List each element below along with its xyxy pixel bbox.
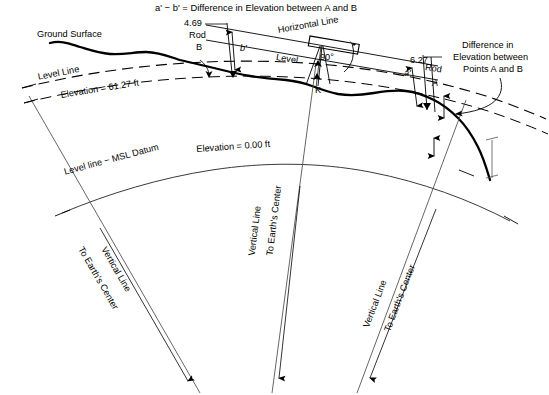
difference-note-line-2: Elevation between <box>453 52 528 64</box>
leveling-diagram: a' − b' = Difference in Elevation betwee… <box>0 0 549 395</box>
rod-b-letter-label: B <box>196 42 202 54</box>
difference-note-line-3: Points A and B <box>463 64 523 76</box>
rod-a-letter-label: A <box>432 78 438 90</box>
rod-a-word-label: Rod <box>424 62 442 76</box>
msl-datum-curve <box>62 164 510 221</box>
rod-b-word-label: Rod <box>189 30 206 42</box>
vertical-line-right <box>357 100 466 393</box>
vertical-line-left <box>29 96 200 393</box>
difference-dimension <box>434 78 501 156</box>
right-angle-label: 90° <box>320 52 334 64</box>
point-k-label: K <box>315 85 321 97</box>
difference-note-line-1: Difference in <box>462 40 513 52</box>
a-prime-dimension-label: a' <box>404 68 411 80</box>
b-prime-dimension-label: b' <box>240 43 247 55</box>
elevation-callout-arrow <box>200 60 213 78</box>
ground-surface-label: Ground Surface <box>37 29 102 41</box>
diagram-title: a' − b' = Difference in Elevation betwee… <box>155 2 357 14</box>
rod-b-reading-label: 4.69 <box>184 18 202 30</box>
